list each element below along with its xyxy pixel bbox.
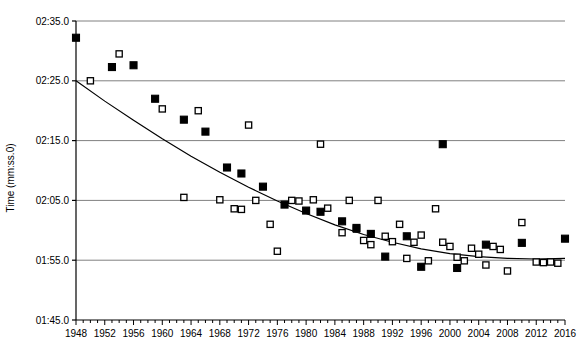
x-axis-tick-label: 1988 [353,328,376,339]
x-axis-tick-label: 1952 [94,328,117,339]
chart-background [0,0,588,356]
data-point-open-square [245,122,251,128]
y-axis-tick-label: 02:15.0 [36,135,70,146]
chart-container: 02:35.002:25.002:15.002:05.001:55.001:45… [0,0,588,356]
data-point-open-square [432,206,438,212]
data-point-open-square [504,268,510,274]
x-axis-tick-label: 2012 [525,328,548,339]
x-axis-tick-label: 2016 [554,328,577,339]
data-point-open-square [519,219,525,225]
x-axis-tick-label: 1976 [266,328,289,339]
data-point-filled-square [108,64,115,71]
data-point-filled-square [180,116,187,123]
data-point-open-square [346,197,352,203]
data-point-open-square [397,221,403,227]
data-point-filled-square [439,141,446,148]
data-point-open-square [540,259,546,265]
data-point-open-square [195,108,201,114]
data-point-filled-square [152,95,159,102]
data-point-open-square [468,245,474,251]
data-point-filled-square [382,253,389,260]
data-point-open-square [267,221,273,227]
data-point-open-square [447,243,453,249]
data-point-open-square [389,239,395,245]
data-point-filled-square [238,170,245,177]
data-point-filled-square [73,34,80,41]
time-progression-scatter-chart: 02:35.002:25.002:15.002:05.001:55.001:45… [0,0,588,356]
x-axis-tick-label: 1948 [65,328,88,339]
data-point-open-square [274,248,280,254]
data-point-open-square [181,194,187,200]
data-point-filled-square [418,263,425,270]
data-point-filled-square [518,239,525,246]
data-point-filled-square [259,183,266,190]
x-axis-tick-label: 1984 [324,328,347,339]
y-axis-tick-label: 01:55.0 [36,255,70,266]
data-point-filled-square [562,235,569,242]
data-point-open-square [325,205,331,211]
data-point-open-square [476,251,482,257]
y-axis-tick-label: 02:05.0 [36,195,70,206]
x-axis-tick-label: 1968 [209,328,232,339]
x-axis-tick-label: 2000 [439,328,462,339]
data-point-open-square [217,197,223,203]
data-point-open-square [425,258,431,264]
data-point-open-square [361,237,367,243]
x-axis-tick-label: 1992 [381,328,404,339]
data-point-open-square [382,233,388,239]
data-point-open-square [533,259,539,265]
data-point-open-square [404,255,410,261]
data-point-open-square [310,197,316,203]
x-axis-tick-label: 1964 [180,328,203,339]
data-point-open-square [231,206,237,212]
data-point-open-square [339,230,345,236]
y-axis-tick-label: 02:35.0 [36,16,70,27]
data-point-open-square [375,197,381,203]
data-point-filled-square [224,164,231,171]
data-point-open-square [317,141,323,147]
data-point-filled-square [339,218,346,225]
data-point-filled-square [367,230,374,237]
data-point-open-square [296,198,302,204]
data-point-open-square [497,246,503,252]
y-axis-tick-label: 01:45.0 [36,315,70,326]
data-point-open-square [490,243,496,249]
data-point-open-square [368,242,374,248]
data-point-open-square [461,258,467,264]
data-point-open-square [87,78,93,84]
data-point-open-square [555,260,561,266]
data-point-open-square [548,259,554,265]
data-point-filled-square [130,62,137,69]
data-point-filled-square [403,233,410,240]
x-axis-tick-label: 2004 [468,328,491,339]
data-point-open-square [411,239,417,245]
data-point-open-square [289,197,295,203]
data-point-open-square [238,206,244,212]
x-axis-tick-label: 1972 [237,328,260,339]
data-point-open-square [440,239,446,245]
data-point-filled-square [353,224,360,231]
data-point-open-square [454,254,460,260]
x-axis-tick-label: 2008 [496,328,519,339]
data-point-filled-square [482,241,489,248]
x-axis-tick-label: 1956 [122,328,145,339]
x-axis-tick-label: 1980 [295,328,318,339]
data-point-filled-square [281,201,288,208]
data-point-open-square [483,262,489,268]
data-point-filled-square [202,128,209,135]
x-axis-tick-label: 1996 [410,328,433,339]
data-point-filled-square [317,208,324,215]
data-point-filled-square [454,264,461,271]
x-axis-tick-label: 1960 [151,328,174,339]
y-axis-title: Time (mm:ss.0) [5,143,16,212]
data-point-open-square [159,106,165,112]
data-point-open-square [253,197,259,203]
data-point-open-square [418,232,424,238]
data-point-filled-square [303,207,310,214]
y-axis-tick-label: 02:25.0 [36,75,70,86]
data-point-open-square [116,51,122,57]
